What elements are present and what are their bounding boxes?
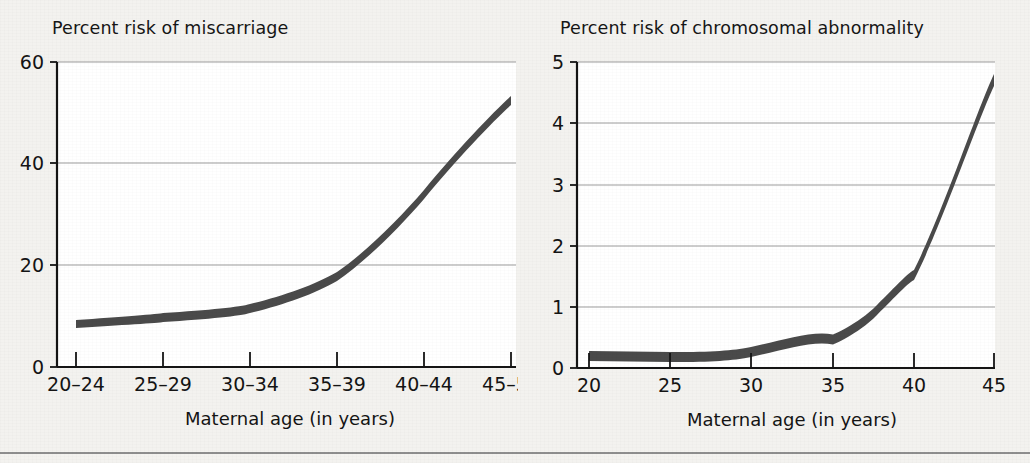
right-xtick-label-35: 35 [821,374,845,396]
right-xtick-label-25: 25 [658,374,682,396]
left-xtick-label-2: 25–29 [134,373,192,395]
bottom-divider-rule [0,452,1030,454]
left-xtick-label-5: 40–44 [395,373,453,395]
right-xtick-label-45: 45 [982,374,1006,396]
left-ytick-label-0: 0 [32,356,44,378]
right-xtick-label-30: 30 [739,374,763,396]
left-xtick-label-3: 30–34 [221,373,279,395]
left-chart-plot: 60 40 20 0 20–24 25–29 30–34 35–39 40–44… [0,0,518,445]
right-ytick-label-1: 1 [552,296,564,318]
right-ytick-label-4: 4 [552,112,564,134]
right-xtick-label-20: 20 [577,374,601,396]
left-xtick-label-4: 35–39 [308,373,366,395]
right-ytick-label-5: 5 [552,51,564,73]
left-ytick-label-60: 60 [20,51,44,73]
right-ytick-label-2: 2 [552,235,564,257]
left-ytick-label-20: 20 [20,254,44,276]
right-xtick-label-40: 40 [902,374,926,396]
chart-panel-chromosomal: Percent risk of chromosomal abnormality [512,0,1030,445]
right-plot-background [577,62,995,368]
right-ytick-label-0: 0 [552,357,564,379]
left-xaxis-title: Maternal age (in years) [185,408,395,429]
right-ytick-label-3: 3 [552,174,564,196]
figure-container: Percent risk of miscarriage 60 40 20 0 [0,0,1030,463]
right-xaxis-title: Maternal age (in years) [687,409,897,430]
left-ytick-label-40: 40 [20,152,44,174]
chart-panel-miscarriage: Percent risk of miscarriage 60 40 20 0 [0,0,518,445]
left-xtick-label-1: 20–24 [47,373,105,395]
right-chart-plot: 5 4 3 2 1 0 20 25 30 35 40 45 Maternal a… [512,0,1030,445]
